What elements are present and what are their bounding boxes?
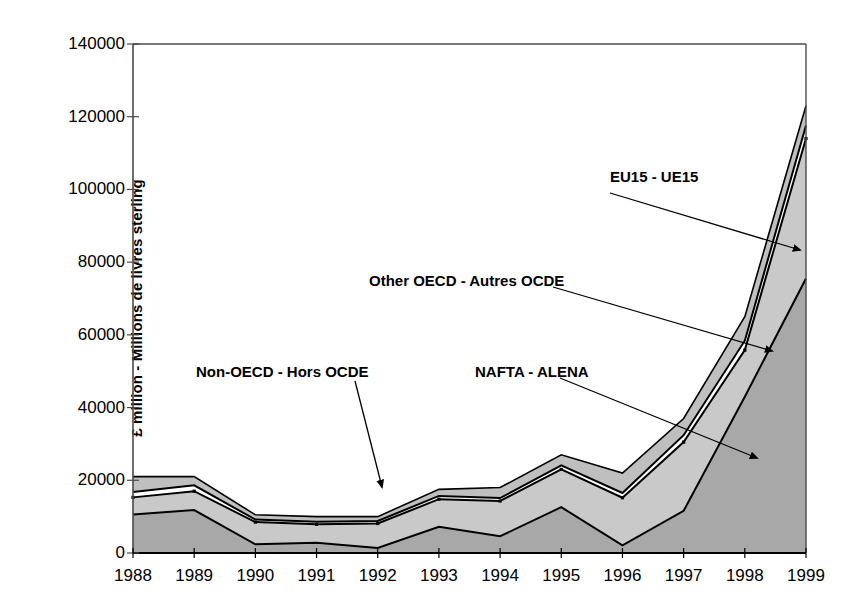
series-marker [621,496,624,499]
stacked-area-chart: £ million - Millions de livres sterling … [0,0,846,615]
annotation-label: EU15 - UE15 [610,168,698,185]
annotation-label: Non-OECD - Hors OCDE [196,363,369,380]
series-marker [560,468,563,471]
annotation-arrow [355,381,382,487]
series-marker [376,522,379,525]
annotation-label: NAFTA - ALENA [475,363,589,380]
annotation-arrow [610,193,800,250]
series-marker [254,520,257,523]
annotation-label: Other OECD - Autres OCDE [369,272,564,289]
series-marker [498,499,501,502]
series-marker [743,349,746,352]
annotation-arrow [553,287,772,351]
series-marker [193,490,196,493]
plot-area [0,0,846,615]
series-marker [437,498,440,501]
series-marker [682,441,685,444]
series-marker [315,523,318,526]
